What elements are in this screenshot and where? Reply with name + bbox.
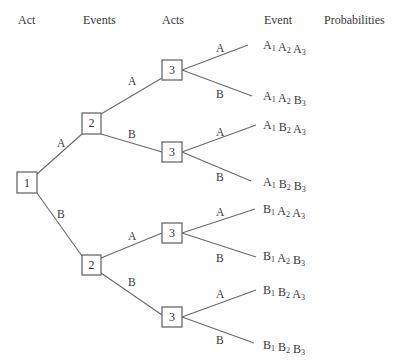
outcome-label: A1 A2 B3: [263, 89, 306, 108]
branch-label-n3bb-a: A: [216, 288, 225, 300]
branch-label-n2b-a: A: [128, 230, 137, 242]
header-act: Act: [18, 13, 36, 27]
act-node-3-2: 3: [162, 142, 182, 162]
outcome-label: B1 B2 B3: [263, 338, 305, 357]
outcome-label: A1 B2 A3: [263, 118, 306, 137]
header-probabilities: Probabilities: [324, 13, 385, 27]
branch-label-n3ba-a: A: [216, 206, 225, 218]
event-node-2-lower: 2: [82, 255, 101, 275]
outcome-list: A1 A2 A3A1 A2 B3A1 B2 A3A1 B2 B3B1 A2 A3…: [263, 38, 306, 357]
node-label: 2: [89, 116, 95, 130]
branch-label-n2b-b: B: [128, 276, 136, 288]
event-node-2-upper: 2: [82, 113, 101, 134]
branch-label-n2a-b: B: [128, 128, 136, 140]
branch-label-n1-a: A: [57, 137, 66, 149]
branch-label-n1-b: B: [57, 208, 65, 220]
outcome-label: A1 B2 B3: [263, 175, 306, 194]
node-label: 3: [169, 63, 175, 77]
branch-label-n3bb-b: B: [216, 334, 224, 346]
node-label: 3: [169, 226, 175, 240]
header-acts: Acts: [162, 13, 184, 27]
branch-label-n3ba-b: B: [216, 252, 224, 264]
branch-label-n3ab-a: A: [216, 126, 225, 138]
node-label: 3: [169, 310, 175, 324]
outcome-label: B1 A2 B3: [263, 249, 305, 268]
header-events: Events: [83, 13, 116, 27]
outcome-label: B1 A2 A3: [263, 202, 305, 221]
outcome-label: B1 B2 A3: [263, 283, 305, 302]
node-label: 1: [24, 176, 30, 190]
outcome-label: A1 A2 A3: [263, 38, 306, 57]
decision-node-1: 1: [17, 172, 37, 193]
branch-label-n2a-a: A: [128, 75, 137, 87]
act-node-3-3: 3: [162, 223, 182, 243]
branch-label-n3aa-b: B: [216, 88, 224, 100]
node-label: 2: [89, 258, 95, 272]
branch-label-n3aa-a: A: [216, 42, 225, 54]
node-label: 3: [169, 145, 175, 159]
header-event: Event: [264, 13, 293, 27]
edge-n1-b: [37, 193, 82, 256]
act-node-3-4: 3: [162, 307, 182, 327]
decision-tree: Act Events Acts Event Probabilities A B …: [0, 0, 401, 364]
branch-label-n3ab-b: B: [216, 171, 224, 183]
act-node-3-1: 3: [162, 60, 182, 80]
edge-n3aa-a: [182, 45, 248, 70]
